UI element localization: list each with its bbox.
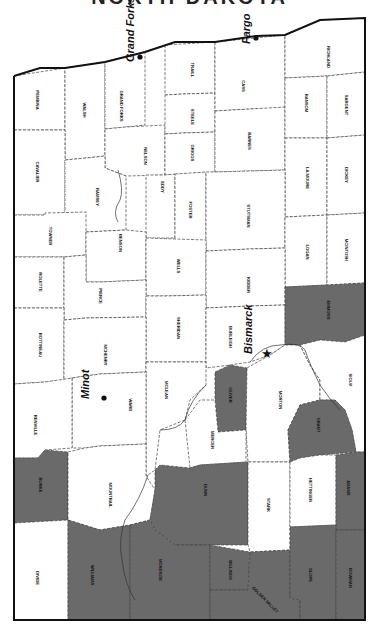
county-kidder[interactable] bbox=[206, 248, 285, 308]
county-label: STUTSMAN bbox=[246, 204, 251, 227]
county-label: KIDDER bbox=[246, 277, 251, 293]
city-label-minot: Minot bbox=[79, 368, 91, 399]
county-label: WALSH bbox=[82, 102, 87, 117]
county-williams[interactable] bbox=[68, 520, 130, 620]
counties-layer bbox=[14, 18, 365, 620]
county-label: STEELE bbox=[190, 109, 195, 125]
county-benson[interactable] bbox=[86, 230, 146, 282]
county-label: ADAMS bbox=[346, 480, 351, 496]
county-stutsman[interactable] bbox=[206, 170, 285, 251]
county-label: RICHLAND bbox=[326, 46, 331, 68]
county-label: SARGENT bbox=[344, 95, 349, 116]
county-richland[interactable] bbox=[285, 18, 365, 78]
county-label: STARK bbox=[266, 498, 271, 512]
county-label: BILLINGS bbox=[228, 560, 233, 580]
county-label: MCINTOSH bbox=[344, 239, 349, 261]
north-dakota-county-map: PEMBINAWALSHGRAND FORKSNELSONTRAILLSTEEL… bbox=[0, 0, 379, 638]
county-label: RANSOM bbox=[304, 94, 309, 113]
county-label: EDDY bbox=[160, 181, 165, 193]
county-label: DIVIDE bbox=[35, 571, 40, 585]
county-label: DUNN bbox=[203, 484, 208, 496]
county-label: GRAND FORKS bbox=[119, 90, 124, 121]
county-label: CASS bbox=[241, 80, 246, 92]
county-label: SHERIDAN bbox=[176, 317, 181, 339]
capital-star-icon: ★ bbox=[261, 346, 273, 361]
county-label: CAVALIER bbox=[35, 162, 40, 183]
county-label: FOSTER bbox=[188, 202, 193, 219]
county-label: WARD bbox=[128, 399, 133, 412]
city-dot-icon bbox=[101, 395, 106, 400]
county-label: TRAILL bbox=[190, 63, 195, 78]
county-label: SIOUX bbox=[348, 373, 353, 386]
county-label: GRANT bbox=[316, 418, 321, 433]
county-label: LOGAN bbox=[305, 244, 310, 259]
county-label: TOWNER bbox=[48, 227, 53, 246]
county-label: PIERCE bbox=[98, 288, 103, 304]
county-label: PEMBINA bbox=[35, 90, 40, 109]
county-label: DICKEY bbox=[344, 167, 349, 183]
county-label: OLIVER bbox=[228, 387, 233, 403]
county-label: MCHENRY bbox=[103, 344, 108, 365]
county-label: EMMONS bbox=[326, 301, 331, 320]
county-label: MCKENZIE bbox=[158, 559, 163, 581]
county-cass[interactable] bbox=[215, 35, 285, 111]
county-renville[interactable] bbox=[14, 378, 72, 458]
county-label: SLOPE bbox=[308, 568, 313, 582]
county-divide[interactable] bbox=[14, 520, 68, 620]
county-grand-forks[interactable] bbox=[105, 52, 145, 129]
county-label: WILLIAMS bbox=[90, 565, 95, 586]
county-dunn[interactable] bbox=[150, 462, 248, 545]
county-label: BARNES bbox=[247, 132, 252, 150]
county-label: MERCER bbox=[210, 431, 215, 449]
county-label: BURLEIGH bbox=[228, 326, 233, 348]
county-emmons[interactable] bbox=[285, 283, 365, 345]
city-label-fargo: Fargo bbox=[240, 13, 252, 44]
county-label: BURKE bbox=[38, 478, 43, 493]
city-dot-icon bbox=[137, 54, 142, 59]
county-label: RENVILLE bbox=[33, 415, 38, 436]
county-label: BOWMAN bbox=[348, 568, 353, 588]
city-label-bismarck: Bismarck bbox=[242, 304, 254, 354]
county-label: LA MOURE bbox=[305, 167, 310, 189]
county-label: BENSON bbox=[118, 234, 123, 252]
county-label: MOUNTRAIL bbox=[108, 482, 113, 508]
city-label-grand-forks: Grand Forks bbox=[124, 0, 136, 62]
city-dot-icon bbox=[253, 35, 258, 40]
county-label: NELSON bbox=[143, 147, 148, 164]
county-label: ROLETTE bbox=[38, 272, 43, 292]
county-nelson[interactable] bbox=[105, 125, 165, 176]
county-label: BOTTINEAU bbox=[38, 333, 43, 357]
county-label: MCLEAN bbox=[164, 381, 169, 399]
county-label: GRIGGS bbox=[190, 145, 195, 162]
county-label: HETTINGER bbox=[308, 478, 313, 502]
county-label: RAMSEY bbox=[95, 188, 100, 206]
county-label: MORTON bbox=[278, 391, 283, 410]
county-label: WELLS bbox=[176, 259, 181, 274]
